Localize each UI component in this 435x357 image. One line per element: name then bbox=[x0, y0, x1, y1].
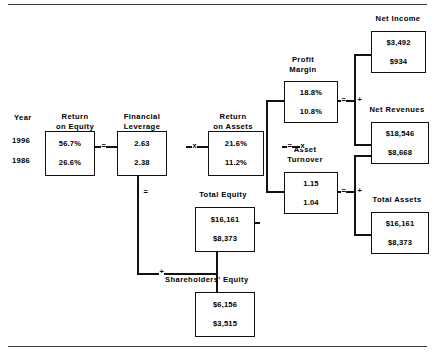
caption-profit-margin-line1: Profit bbox=[275, 55, 331, 65]
caption-financial-leverage-line2: Leverage bbox=[111, 122, 173, 132]
operator-equity-plus: + bbox=[159, 268, 164, 275]
value-profit-margin-1986: 10.8% bbox=[300, 108, 322, 116]
operator-roa-equals: = bbox=[287, 142, 292, 149]
operator-at-equals: = bbox=[341, 187, 346, 194]
caption-financial-leverage-line1: Financial bbox=[111, 112, 173, 122]
connector-bracket-to-profit-margin bbox=[266, 100, 286, 102]
caption-financial-leverage: Financial Leverage bbox=[111, 112, 173, 132]
caption-profit-margin: Profit Margin bbox=[275, 55, 331, 75]
connector-bracket-to-net-income bbox=[354, 54, 372, 56]
caption-return-on-assets: Return on Assets bbox=[202, 112, 264, 132]
value-total-assets-1986: $8,373 bbox=[388, 239, 412, 247]
box-return-on-equity: 56.7% 26.6% bbox=[45, 131, 95, 176]
value-return-on-equity-1986: 26.6% bbox=[59, 159, 81, 167]
year-label-1: 1996 bbox=[12, 136, 30, 145]
caption-return-on-assets-line1: Return bbox=[202, 112, 264, 122]
caption-asset-turnover-line2: Turnover bbox=[275, 155, 335, 165]
caption-profit-margin-line2: Margin bbox=[275, 65, 331, 75]
value-profit-margin-1996: 18.8% bbox=[300, 89, 322, 97]
value-return-on-assets-1996: 21.6% bbox=[225, 140, 247, 148]
value-return-on-equity-1996: 56.7% bbox=[59, 140, 81, 148]
value-net-revenues-1996: $18,546 bbox=[386, 130, 415, 138]
caption-net-revenues: Net Revenues bbox=[358, 105, 435, 115]
connector-bracket-to-net-revenues bbox=[354, 144, 372, 146]
caption-return-on-equity-line2: on Equity bbox=[45, 122, 105, 132]
caption-return-on-assets-line2: on Assets bbox=[202, 122, 264, 132]
operator-at-plus: + bbox=[357, 187, 362, 194]
operator-pm-equals: = bbox=[341, 96, 346, 103]
value-financial-leverage-1996: 2.63 bbox=[134, 140, 149, 148]
box-total-assets: $16,161 $8,373 bbox=[371, 212, 429, 254]
operator-roa-times: x bbox=[300, 142, 305, 149]
year-label-2: 1986 bbox=[12, 156, 30, 165]
operator-pm-plus: + bbox=[357, 96, 362, 103]
box-financial-leverage: 2.63 2.38 bbox=[117, 131, 167, 176]
box-shareholders-equity: $6,156 $3,515 bbox=[195, 292, 255, 337]
value-total-assets-1996: $16,161 bbox=[386, 220, 415, 228]
value-financial-leverage-1986: 2.38 bbox=[134, 159, 149, 167]
value-net-income-1996: $3,492 bbox=[386, 39, 410, 47]
value-total-equity-1986: $8,373 bbox=[213, 235, 237, 243]
bottom-divider-rule bbox=[8, 346, 427, 347]
caption-total-assets: Total Assets bbox=[361, 195, 433, 205]
caption-return-on-equity-line1: Return bbox=[45, 112, 105, 122]
connector-leverage-stem bbox=[137, 176, 139, 275]
value-asset-turnover-1986: 1.04 bbox=[303, 199, 318, 207]
operator-leverage-equals: = bbox=[143, 188, 148, 195]
connector-bracket-to-net-revenues-lower bbox=[354, 155, 372, 157]
value-asset-turnover-1996: 1.15 bbox=[303, 180, 318, 188]
dupont-diagram-page: Year 1996 1986 = x = + = x = + = + Retur… bbox=[0, 0, 435, 357]
connector-roa-bracket-vertical bbox=[266, 100, 268, 193]
connector-bracket-to-asset-turnover bbox=[266, 191, 286, 193]
box-net-revenues: $18,546 $8,668 bbox=[371, 122, 429, 164]
value-net-revenues-1986: $8,668 bbox=[388, 149, 412, 157]
caption-net-income: Net Income bbox=[363, 14, 433, 24]
operator-leverage-times: x bbox=[192, 142, 197, 149]
top-divider-rule bbox=[8, 4, 427, 5]
box-total-equity: $16,161 $8,373 bbox=[195, 207, 255, 252]
value-shareholders-equity-1996: $6,156 bbox=[213, 301, 237, 309]
year-column-header: Year bbox=[14, 113, 32, 122]
caption-total-equity: Total Equity bbox=[186, 190, 260, 200]
value-return-on-assets-1986: 11.2% bbox=[225, 159, 247, 167]
box-net-income: $3,492 $934 bbox=[371, 31, 426, 73]
connector-pm-bracket-vertical bbox=[354, 54, 356, 146]
connector-at-bracket-vertical bbox=[354, 155, 356, 235]
caption-return-on-equity: Return on Equity bbox=[45, 112, 105, 132]
box-return-on-assets: 21.6% 11.2% bbox=[208, 131, 264, 176]
box-asset-turnover: 1.15 1.04 bbox=[284, 172, 338, 214]
box-profit-margin: 18.8% 10.8% bbox=[284, 81, 338, 123]
value-net-income-1986: $934 bbox=[390, 58, 408, 66]
caption-shareholders-equity: Shareholders' Equity bbox=[165, 275, 280, 285]
connector-bracket-to-total-assets bbox=[354, 234, 372, 236]
value-total-equity-1996: $16,161 bbox=[211, 216, 240, 224]
operator-roe-equals: = bbox=[101, 142, 106, 149]
value-shareholders-equity-1986: $3,515 bbox=[213, 320, 237, 328]
